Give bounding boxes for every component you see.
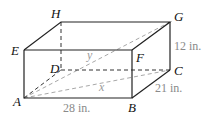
vertex-label-F: F xyxy=(135,50,145,65)
width-measurement: 21 in. xyxy=(155,81,182,95)
vertex-label-D: D xyxy=(49,61,60,76)
vertex-label-A: A xyxy=(12,94,21,109)
rectangular-prism-diagram: H G E F D C A B 28 in. 21 in. 12 in. y x xyxy=(0,0,212,125)
vertex-label-G: G xyxy=(174,9,184,24)
top-face xyxy=(24,22,170,50)
vertex-label-E: E xyxy=(10,43,19,58)
vertex-label-H: H xyxy=(50,6,61,21)
length-measurement: 28 in. xyxy=(63,101,90,115)
diagonal-label-y: y xyxy=(86,48,93,62)
diagonal-x-AC xyxy=(24,70,170,98)
vertex-label-C: C xyxy=(174,63,183,78)
height-measurement: 12 in. xyxy=(174,39,201,53)
vertex-label-B: B xyxy=(128,100,136,115)
diagonal-label-x: x xyxy=(98,80,105,94)
front-face xyxy=(24,50,132,98)
